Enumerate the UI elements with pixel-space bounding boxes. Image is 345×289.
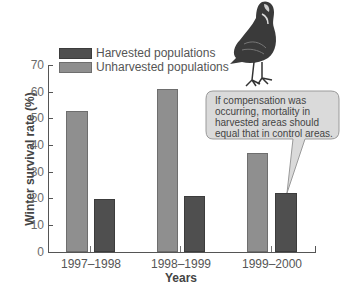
- bar-harvested-1997-1998: [94, 199, 115, 252]
- bar-harvested-1999-2000: [275, 193, 297, 252]
- x-axis-line: [48, 252, 316, 253]
- legend-label-harvested: Harvested populations: [96, 46, 215, 60]
- y-tick-label: 30: [24, 165, 44, 179]
- callout-line: harvested areas should: [215, 117, 319, 129]
- x-tick-label: 1999–2000: [232, 257, 312, 271]
- y-tick: [48, 118, 53, 119]
- bar-unharvested-1998-1999: [157, 89, 178, 252]
- y-tick-label: 60: [24, 85, 44, 99]
- legend-swatch-unharvested: [59, 62, 92, 73]
- y-tick-label: 10: [24, 218, 44, 232]
- quail-illustration-icon: [222, 0, 292, 90]
- y-tick: [48, 65, 53, 66]
- y-tick: [48, 172, 53, 173]
- x-tick-label: 1997–1998: [51, 257, 131, 271]
- callout-line: equal that in control areas.: [215, 128, 333, 140]
- y-tick: [48, 198, 53, 199]
- x-tick: [180, 246, 181, 252]
- legend-label-unharvested: Unharvested populations: [96, 60, 229, 74]
- x-axis-end-tick: [315, 246, 316, 253]
- bar-harvested-1998-1999: [184, 196, 205, 252]
- callout-line: If compensation was: [215, 95, 306, 107]
- y-tick-label: 50: [24, 111, 44, 125]
- bar-unharvested-1997-1998: [66, 111, 88, 252]
- x-axis-label: Years: [141, 271, 221, 285]
- y-tick-label: 40: [24, 138, 44, 152]
- callout-line: occurring, mortality in: [215, 106, 310, 118]
- legend-swatch-harvested: [59, 48, 92, 59]
- y-tick-label: 0: [24, 245, 44, 259]
- y-tick: [48, 225, 53, 226]
- y-tick-label: 20: [24, 191, 44, 205]
- x-tick: [90, 246, 91, 252]
- y-tick: [48, 92, 53, 93]
- y-tick: [48, 145, 53, 146]
- x-tick: [271, 246, 272, 252]
- y-axis-label: Winter survival rate (%): [23, 84, 37, 234]
- x-tick-label: 1998–1999: [141, 257, 221, 271]
- y-tick-label: 70: [24, 58, 44, 72]
